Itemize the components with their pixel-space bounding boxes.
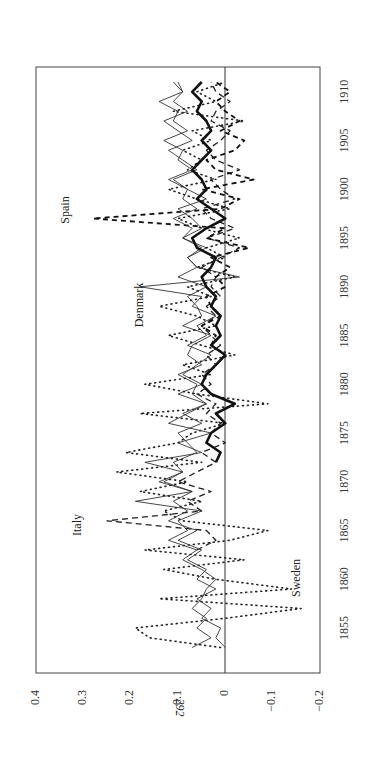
y-tick-label: 0.2	[122, 690, 136, 705]
series-line-sweden	[117, 82, 302, 648]
series-label-spain: Spain	[58, 196, 72, 223]
page-number: 292	[172, 699, 187, 717]
x-tick-label: 1890	[337, 275, 351, 299]
series-label-sweden: Sweden	[289, 559, 303, 597]
x-tick-label: 1870	[337, 470, 351, 494]
series-layer	[93, 82, 301, 648]
x-tick-labels: 1855186018651870187518801885189018951900…	[337, 80, 351, 640]
y-tick-label: −0.1	[264, 690, 278, 712]
x-tick-label: 1905	[337, 129, 351, 153]
x-tick-label: 1895	[337, 226, 351, 250]
x-tick-label: 1910	[337, 80, 351, 104]
y-tick-label: 0.3	[75, 690, 89, 705]
y-tick-label: 0	[217, 690, 231, 696]
series-label-denmark: Denmark	[132, 283, 146, 328]
x-tick-label: 1885	[337, 324, 351, 348]
chart: 0.40.30.20.10−0.1−0.2 185518601865187018…	[0, 0, 366, 757]
x-tick-label: 1865	[337, 519, 351, 543]
y-tick-label: 0.4	[28, 690, 42, 705]
series-label-italy: Italy	[70, 514, 84, 536]
x-tick-label: 1880	[337, 372, 351, 396]
series-labels: SpainDenmarkItalySweden	[58, 196, 303, 597]
x-tick-label: 1900	[337, 177, 351, 201]
x-tick-label: 1860	[337, 567, 351, 591]
x-tick-label: 1875	[337, 421, 351, 445]
plot-frame	[36, 67, 320, 673]
y-tick-label: −0.2	[312, 690, 326, 712]
x-tick-label: 1855	[337, 616, 351, 640]
